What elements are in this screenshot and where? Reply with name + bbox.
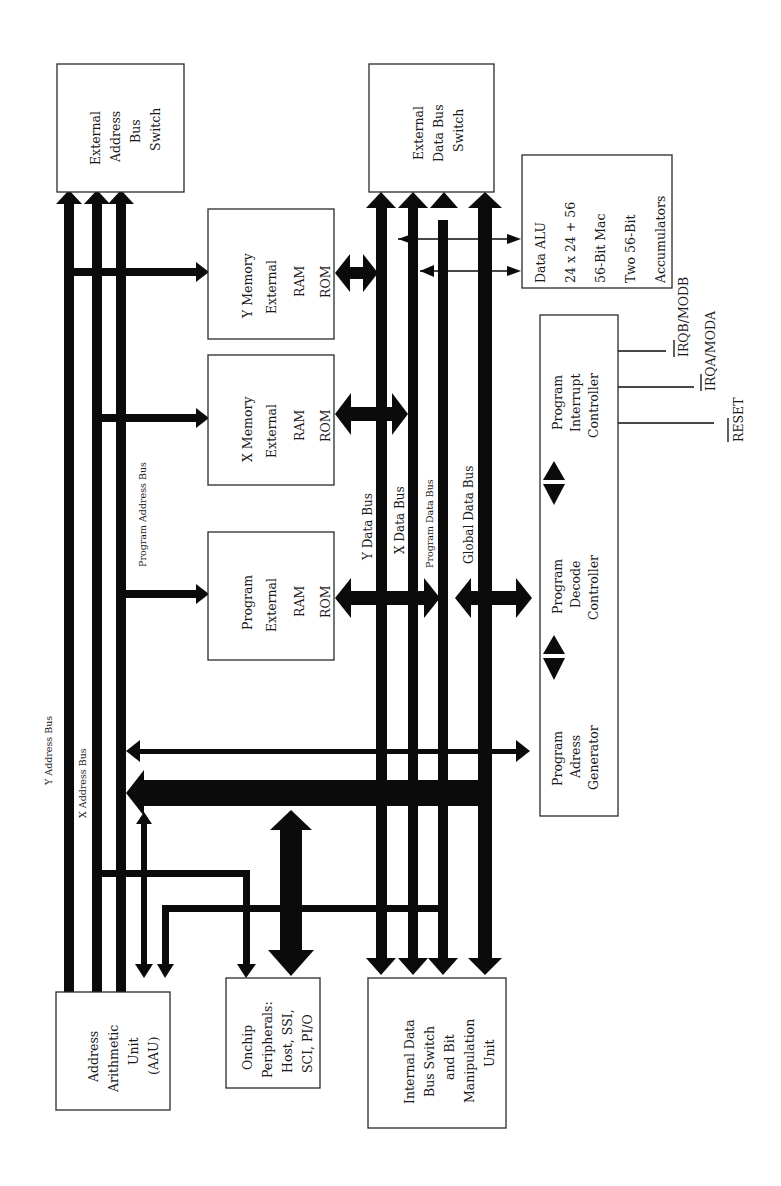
- x-data-bus-label: X Data Bus: [393, 486, 407, 554]
- svg-text:X Memory: X Memory: [240, 396, 255, 462]
- svg-text:External: External: [264, 404, 279, 458]
- svg-text:Host, SSI,: Host, SSI,: [280, 1009, 295, 1073]
- svg-text:Interrupt: Interrupt: [568, 374, 583, 432]
- svg-text:ROM: ROM: [318, 265, 333, 298]
- svg-text:SCI, PI/O: SCI, PI/O: [300, 1014, 315, 1073]
- svg-text:Arithmetic: Arithmetic: [106, 1025, 121, 1093]
- svg-text:Program: Program: [550, 375, 565, 430]
- svg-text:Switch: Switch: [451, 109, 466, 152]
- svg-text:Accumulators: Accumulators: [653, 196, 668, 284]
- svg-text:and Bit: and Bit: [442, 1034, 457, 1080]
- program-memory-block: Program External RAM ROM: [208, 532, 334, 660]
- dsp-block-diagram: Y Address Bus X Address Bus Program Addr…: [0, 0, 781, 1186]
- external-data-bus-switch-block: External Data Bus Switch: [369, 64, 494, 192]
- program-address-bus-label: Program Address Bus: [137, 462, 148, 567]
- svg-text:Program: Program: [240, 575, 255, 630]
- svg-text:Controller: Controller: [586, 373, 601, 438]
- svg-text:56-Bit Mac: 56-Bit Mac: [593, 213, 608, 283]
- external-address-bus-switch-block: External Address Bus Switch: [57, 64, 184, 192]
- svg-text:Switch: Switch: [148, 108, 163, 151]
- program-control-unit: Program Interrupt Controller Program Dec…: [540, 315, 618, 816]
- y-address-bus-label: Y Address Bus: [43, 716, 54, 786]
- y-data-bus-label: Y Data Bus: [361, 493, 375, 561]
- svg-text:Two 56-Bit: Two 56-Bit: [623, 215, 638, 283]
- svg-text:24 x 24 + 56: 24 x 24 + 56: [563, 202, 578, 283]
- svg-text:Unit: Unit: [126, 1037, 141, 1065]
- interrupt-signal-lines: IRQB/MODB IRQA/MODA RESET: [604, 277, 746, 442]
- irqa-moda-signal-label: IRQA/MODA: [703, 310, 718, 391]
- reset-signal-label: RESET: [731, 397, 746, 442]
- svg-text:Y Memory: Y Memory: [240, 252, 255, 319]
- svg-text:(AAU): (AAU): [146, 1037, 161, 1075]
- svg-text:External: External: [88, 111, 103, 165]
- svg-text:Decode: Decode: [568, 561, 583, 608]
- lower-horizontal-buses: [97, 740, 530, 978]
- svg-text:ROM: ROM: [318, 585, 333, 618]
- y-memory-block: Y Memory External RAM ROM: [208, 209, 334, 339]
- svg-text:Internal Data: Internal Data: [402, 1019, 417, 1104]
- address-arithmetic-unit-block: Address Arithmetic Unit (AAU): [56, 992, 170, 1110]
- x-memory-block: X Memory External RAM ROM: [208, 355, 334, 485]
- svg-text:Peripherals:: Peripherals:: [260, 1001, 275, 1078]
- svg-text:Generator: Generator: [586, 725, 601, 790]
- svg-text:External: External: [264, 260, 279, 314]
- svg-text:Onchip: Onchip: [240, 1025, 255, 1070]
- svg-text:Program: Program: [550, 731, 565, 786]
- svg-text:RAM: RAM: [292, 586, 307, 617]
- internal-data-bus-switch-block: Internal Data Bus Switch and Bit Manipul…: [368, 978, 506, 1128]
- svg-text:Address: Address: [86, 1031, 101, 1083]
- svg-text:Adress: Adress: [568, 735, 583, 779]
- svg-text:RAM: RAM: [292, 410, 307, 441]
- svg-text:ROM: ROM: [318, 409, 333, 442]
- svg-text:Data Bus: Data Bus: [431, 104, 446, 162]
- program-data-bus-label: Program Data Bus: [424, 479, 435, 568]
- data-buses: [366, 192, 502, 975]
- svg-text:Manipulation: Manipulation: [462, 1019, 477, 1103]
- irqb-modb-signal-label: IRQB/MODB: [676, 277, 691, 357]
- svg-text:Controller: Controller: [586, 555, 601, 620]
- svg-text:External: External: [264, 578, 279, 632]
- svg-text:Bus Switch: Bus Switch: [422, 1026, 437, 1097]
- onchip-peripherals-block: Onchip Peripherals: Host, SSI, SCI, PI/O: [226, 978, 320, 1088]
- svg-text:Unit: Unit: [482, 1039, 497, 1067]
- global-data-bus-label: Global Data Bus: [462, 466, 476, 564]
- x-address-bus-label: X Address Bus: [77, 748, 88, 818]
- svg-text:External: External: [411, 106, 426, 160]
- svg-text:Address: Address: [108, 111, 123, 163]
- svg-text:Data ALU: Data ALU: [533, 222, 548, 283]
- data-alu-block: Data ALU 24 x 24 + 56 56-Bit Mac Two 56-…: [522, 155, 672, 288]
- program-interrupt-controller-block: Program Interrupt Controller: [550, 373, 601, 438]
- svg-text:RAM: RAM: [292, 266, 307, 297]
- svg-text:Bus: Bus: [128, 119, 143, 143]
- svg-text:Program: Program: [550, 559, 565, 614]
